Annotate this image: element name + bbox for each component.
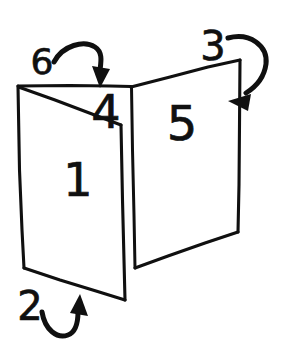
arrow-6-arc (54, 44, 101, 70)
arrow-2-head (70, 294, 88, 316)
arrow-label-3: 3 (200, 23, 225, 69)
face-label-5: 5 (167, 95, 198, 151)
face-label-4: 4 (91, 85, 120, 139)
arrow-2-arc (42, 312, 78, 336)
center-fold-line (132, 87, 136, 268)
right-panel-bottom-edge (135, 232, 238, 268)
face-label-1: 1 (63, 153, 92, 207)
folded-panel-sketch: 1 4 5 6 3 2 (0, 0, 288, 355)
arrow-3-arc (228, 37, 266, 93)
arrow-3-group (228, 37, 266, 111)
arrow-label-6: 6 (31, 41, 54, 82)
left-panel-inner-edge (121, 125, 125, 300)
diagram-canvas: 1 4 5 6 3 2 (0, 0, 288, 355)
left-panel-outer-edge (18, 86, 24, 268)
arrow-2-group (42, 294, 88, 336)
arrow-label-2: 2 (17, 283, 42, 329)
right-panel-outer-edge (238, 60, 240, 232)
arrow-6-group (54, 44, 110, 88)
